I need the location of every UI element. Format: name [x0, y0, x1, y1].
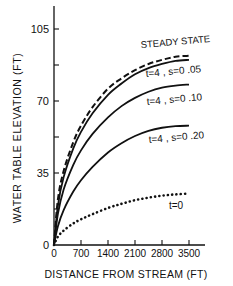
x-tick-label: 700 — [73, 248, 90, 259]
x-tick-label: 2800 — [151, 248, 174, 259]
label-t0: t=0 — [169, 200, 184, 211]
y-tick-label: 70 — [37, 95, 49, 107]
y-ticks: 03570105 — [31, 23, 59, 251]
curve-t-4-s-0-05 — [54, 60, 189, 245]
label-s010: t=4 , s=0 .10 — [146, 91, 203, 107]
y-tick-label: 0 — [43, 239, 49, 251]
y-axis-title: WATER TABLE ELEVATION (FT) — [11, 53, 23, 224]
x-ticks: 07001400210028003500 — [51, 240, 200, 259]
x-tick-label: 2100 — [124, 248, 147, 259]
y-tick-label: 35 — [37, 167, 49, 179]
curve-t-4-s-0-10 — [54, 85, 189, 245]
y-tick-label: 105 — [31, 23, 49, 35]
curves — [54, 56, 189, 245]
x-tick-label: 1400 — [97, 248, 120, 259]
x-tick-label: 0 — [51, 248, 57, 259]
x-tick-label: 3500 — [178, 248, 201, 259]
x-axis-title: DISTANCE FROM STREAM (FT) — [44, 268, 207, 280]
water-table-chart: 03570105 07001400210028003500 WATER TABL… — [0, 0, 233, 286]
label-steady-state: STEADY STATE — [140, 33, 210, 50]
label-s020: t=4 , s=0 .20 — [148, 129, 205, 145]
